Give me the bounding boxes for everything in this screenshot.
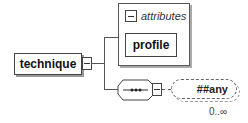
any-element-label: ##any [197, 83, 228, 95]
element-technique[interactable]: technique [14, 53, 82, 75]
connector-to-sequence [104, 89, 118, 90]
any-element[interactable]: ##any [171, 79, 237, 99]
collapse-toggle-attributes[interactable] [125, 10, 137, 22]
minus-icon [154, 89, 160, 90]
connector-root-trunk [92, 63, 104, 64]
connector-to-attributes [104, 37, 118, 38]
minus-icon [128, 16, 134, 17]
element-technique-label: technique [20, 57, 77, 71]
attributes-group: attributes profile [118, 3, 190, 66]
attribute-profile[interactable]: profile [125, 33, 177, 57]
minus-icon [84, 63, 90, 64]
collapse-toggle-sequence[interactable] [152, 83, 162, 96]
connector-to-any [162, 89, 171, 91]
attributes-header[interactable]: attributes [125, 10, 186, 22]
collapse-toggle-technique[interactable] [82, 57, 92, 70]
attributes-title: attributes [141, 10, 186, 22]
connector-trunk [104, 37, 105, 90]
sequence-compositor[interactable] [117, 79, 155, 101]
any-occurrence-label: 0..∞ [209, 106, 227, 117]
attribute-profile-label: profile [133, 38, 170, 52]
